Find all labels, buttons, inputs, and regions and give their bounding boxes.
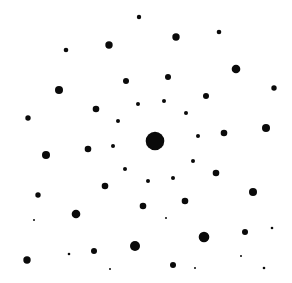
- diffraction-spot: [249, 188, 257, 196]
- diffraction-spot: [55, 86, 63, 94]
- diffraction-spot: [123, 167, 127, 171]
- diffraction-pattern-image: [0, 0, 292, 283]
- diffraction-spot: [196, 134, 200, 138]
- diffraction-spot: [170, 262, 176, 268]
- diffraction-spot: [263, 267, 266, 270]
- diffraction-spot: [68, 253, 71, 256]
- diffraction-spot: [194, 267, 196, 269]
- diffraction-spot: [172, 33, 179, 40]
- diffraction-spot: [171, 176, 175, 180]
- diffraction-spot: [203, 93, 209, 99]
- diffraction-spot: [271, 227, 274, 230]
- diffraction-spot: [213, 170, 220, 177]
- diffraction-spot: [182, 198, 189, 205]
- diffraction-spot: [137, 15, 141, 19]
- diffraction-spot: [85, 146, 92, 153]
- diffraction-spot: [242, 229, 248, 235]
- diffraction-spot: [232, 65, 241, 74]
- diffraction-spot: [130, 241, 140, 251]
- diffraction-spot: [240, 255, 242, 257]
- diffraction-spots: [0, 0, 292, 283]
- diffraction-spot: [72, 210, 81, 219]
- diffraction-spot: [123, 78, 129, 84]
- diffraction-spot: [184, 111, 188, 115]
- diffraction-spot: [271, 85, 276, 90]
- diffraction-spot: [165, 217, 167, 219]
- diffraction-spot: [217, 30, 222, 35]
- diffraction-spot: [93, 106, 100, 113]
- diffraction-spot: [199, 232, 210, 243]
- diffraction-spot: [165, 74, 171, 80]
- diffraction-spot: [91, 248, 97, 254]
- diffraction-spot: [35, 192, 40, 197]
- diffraction-spot: [102, 183, 109, 190]
- diffraction-spot: [105, 41, 112, 48]
- diffraction-spot: [25, 115, 30, 120]
- diffraction-spot: [42, 151, 50, 159]
- diffraction-spot: [262, 124, 270, 132]
- diffraction-spot: [33, 219, 35, 221]
- central-beam-spot: [146, 132, 165, 151]
- diffraction-spot: [23, 256, 30, 263]
- diffraction-spot: [116, 119, 120, 123]
- diffraction-spot: [191, 159, 195, 163]
- diffraction-spot: [140, 203, 147, 210]
- diffraction-spot: [109, 268, 111, 270]
- diffraction-spot: [221, 130, 228, 137]
- diffraction-spot: [64, 48, 69, 53]
- diffraction-spot: [146, 179, 150, 183]
- diffraction-spot: [111, 144, 115, 148]
- diffraction-spot: [136, 102, 140, 106]
- diffraction-spot: [162, 99, 166, 103]
